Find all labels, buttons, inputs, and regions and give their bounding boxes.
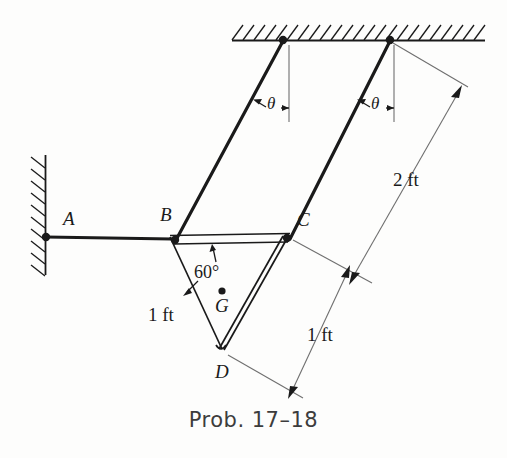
joint-dot-C [283,234,291,242]
joint-dot-ceiling-left [279,36,287,44]
mechanics-diagram [0,0,507,458]
theta-right-arrowhead2 [387,105,394,111]
dim-2ft-ext-bottom [293,240,372,283]
label-point-G: G [215,296,229,315]
center-of-mass-dot-G [218,287,225,294]
wall-support [31,155,46,276]
dim-2ft-arrowhead-bottom [349,272,360,285]
dim-1ft-arrowhead-bottom [288,386,298,399]
label-point-B: B [160,205,172,224]
plate-edge-CD-outer [224,235,289,350]
label-dimension-1ft-right: 1 ft [307,325,333,344]
dim-2ft-ext-top [393,43,468,87]
joint-dot-A [42,233,50,241]
label-dimension-1ft-left: 1 ft [148,305,174,324]
rod-left-line [176,41,283,240]
bar-AB [46,237,172,239]
figure-page: A B C D G θ θ 60° 2 ft 1 ft 1 ft Prob. 1… [0,0,507,458]
plate-edge-CD-inner [219,236,283,349]
rod-left [176,41,283,240]
dim-2ft-arrowhead-top [451,85,462,98]
label-dimension-2ft: 2 ft [393,170,419,189]
label-point-D: D [215,362,229,381]
angle60-arrowhead-up [210,244,217,252]
joint-dot-ceiling-right [386,36,394,44]
label-point-A: A [63,209,75,228]
ceiling-support [232,25,485,41]
label-theta-right: θ [371,95,379,112]
theta-left-arrowhead2 [282,105,289,111]
label-theta-left: θ [267,95,275,112]
wall-hatching [31,157,45,276]
label-angle-60: 60° [194,263,219,281]
figure-caption: Prob. 17–18 [0,408,507,432]
plate-edge-BC-inner [174,242,288,244]
label-point-C: C [297,210,310,229]
ceiling-hatching [232,25,485,40]
dimension-2ft [293,43,468,285]
link-AB [46,237,172,239]
joint-dot-B [171,236,179,244]
plate-edge-BC-outer [170,234,290,236]
